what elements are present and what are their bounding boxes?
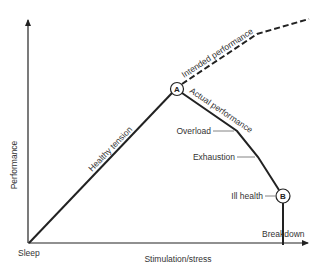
- stress-performance-diagram: A B Performance Stimulation/stress Sleep…: [0, 0, 322, 268]
- x-axis-label: Stimulation/stress: [144, 254, 211, 264]
- intended-performance-label: Intended performance: [180, 26, 255, 80]
- y-axis-label: Performance: [9, 140, 19, 189]
- healthy-tension-line: [29, 93, 172, 243]
- point-b-label: B: [280, 192, 286, 201]
- point-a-marker: A: [171, 83, 184, 96]
- point-a-label: A: [174, 85, 180, 94]
- origin-label: Sleep: [18, 248, 40, 258]
- exhaustion-label: Exhaustion: [193, 152, 235, 162]
- breakdown-label: Breakdown: [262, 229, 305, 239]
- healthy-tension-label: Healthy tension: [86, 124, 134, 173]
- actual-performance-line: [182, 93, 279, 190]
- point-b-marker: B: [276, 189, 290, 203]
- overload-label: Overload: [177, 126, 212, 136]
- ill-health-label: Ill health: [231, 191, 263, 201]
